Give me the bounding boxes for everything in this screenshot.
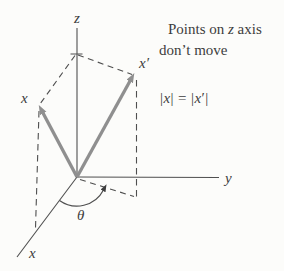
annotation-line1-part1: Points on (168, 21, 228, 37)
y-axis-label: y (223, 170, 232, 186)
dashed-roof-left (40, 56, 75, 105)
annotation-line2: don’t move (159, 40, 262, 61)
z-axis-label: z (73, 10, 80, 26)
annotation-line1-part3: axis (234, 21, 262, 37)
dashed-roof-right (78, 55, 132, 75)
magnitude-equation: |x| = |x′| (160, 90, 209, 107)
x-prime-vector-arrow (77, 81, 130, 177)
annotation-line1: Points on z axis (159, 19, 262, 40)
x-axis-line (17, 177, 77, 257)
equation-equals: | = | (170, 90, 194, 106)
x-prime-vector-label: x′ (138, 55, 150, 71)
equation-x-prime-symbol: x (194, 90, 201, 106)
dashed-projection-ray (80, 180, 134, 197)
x-vector-arrow (43, 113, 77, 177)
y-axis-line (77, 177, 219, 178)
theta-angle-label: θ (77, 207, 85, 223)
dashed-drop-left (36, 111, 40, 229)
equation-bar-close: ′| (202, 90, 209, 106)
rotation-diagram-figure: z y x x x′ θ Points on z axis don’t move… (0, 0, 284, 271)
x-vector-label: x (20, 90, 28, 106)
annotation-text-block: Points on z axis don’t move (159, 19, 262, 61)
x-axis-label: x (28, 245, 36, 261)
